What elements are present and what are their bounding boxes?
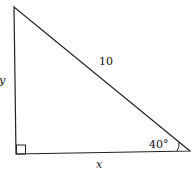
- hypotenuse-label: 10: [99, 55, 113, 68]
- triangle: [14, 7, 190, 154]
- horizontal-side-label: x: [96, 158, 103, 171]
- right-angle-marker: [17, 145, 26, 154]
- vertical-side-label: y: [0, 74, 6, 87]
- angle-arc: [177, 142, 179, 151]
- angle-label: 40°: [149, 138, 169, 151]
- triangle-diagram: 10 y x 40°: [0, 0, 191, 172]
